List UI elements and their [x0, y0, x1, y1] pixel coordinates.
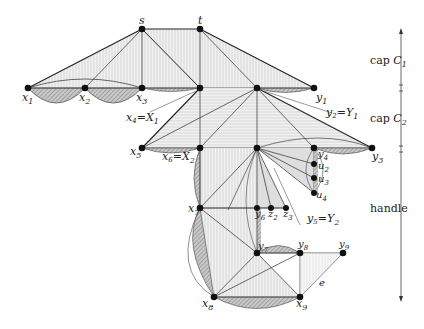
label-x6-X2: x6=X2 [162, 150, 195, 165]
label-x9: x9 [296, 297, 307, 312]
arrow-down-icon [399, 296, 403, 302]
label-u2: u2 [318, 160, 329, 174]
label-u3: u3 [318, 173, 329, 187]
section-label-handle: handle [370, 202, 408, 215]
graph-diagram: s t x1 x2 x3 x4=X1 y1 y2=Y1 x5 x6=X2 y3 … [0, 0, 424, 329]
cap-c2-region [142, 88, 372, 154]
node-top-mid [254, 85, 261, 92]
cap-c1-region [28, 29, 314, 103]
label-y2-Y1: y2=Y1 [325, 106, 358, 121]
node-x4 [197, 85, 204, 92]
label-x4-X1: x4=X1 [126, 111, 159, 126]
section-bracket: cap C1 cap C2 handle [370, 28, 408, 302]
label-z2: z2 [267, 208, 278, 222]
node-x8 [211, 294, 218, 301]
node-u2 [311, 161, 317, 167]
node-u3 [311, 175, 317, 181]
label-y1: y1 [315, 91, 327, 106]
label-y5-Y2: y5=Y2 [306, 212, 339, 227]
label-z3: z3 [282, 208, 293, 222]
label-x1: x1 [22, 91, 33, 106]
node-x6 [197, 145, 204, 152]
label-u4: u4 [316, 189, 327, 203]
section-label-cap-c2: cap C2 [370, 112, 407, 127]
label-t: t [198, 14, 203, 27]
node-y8 [297, 250, 304, 257]
node-y4 [311, 145, 318, 152]
arrow-up-icon [399, 28, 403, 34]
label-x3: x3 [136, 91, 147, 106]
node-y5 [254, 145, 261, 152]
label-y8: y8 [297, 238, 309, 252]
label-y9: y9 [338, 238, 350, 252]
label-s: s [139, 14, 145, 27]
section-label-cap-c1: cap C1 [370, 54, 407, 69]
label-e: e [319, 277, 325, 288]
label-y3: y3 [371, 150, 383, 165]
label-x2: x2 [79, 91, 90, 106]
